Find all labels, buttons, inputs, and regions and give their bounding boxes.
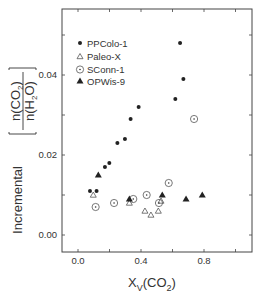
open-triangle-marker (77, 54, 83, 59)
dotted-circle-marker (165, 179, 172, 186)
legend-label: Paleo-X (87, 51, 121, 62)
filled-triangle-marker (77, 78, 84, 84)
legend-item: SConn-1 (76, 64, 124, 75)
filled-circle-marker (115, 141, 119, 145)
scatter-chart: 0.00.40.80.000.020.04 PPColo-1Paleo-XSCo… (0, 0, 261, 298)
filled-circle-marker (181, 77, 185, 81)
filled-circle-marker (103, 165, 107, 169)
x-tick-label: 0.8 (197, 255, 210, 266)
y-tick-label: 0.04 (39, 69, 58, 80)
dotted-circle-marker (110, 199, 117, 206)
dotted-circle-marker (143, 191, 150, 198)
open-triangle-marker (148, 212, 154, 217)
legend-label: SConn-1 (87, 64, 125, 75)
legend-label: OPWis-9 (87, 76, 125, 87)
x-tick-label: 0.0 (71, 255, 84, 266)
dotted-circle-marker (92, 203, 99, 210)
filled-circle-marker (137, 105, 141, 109)
y-axis-fraction: n(CO2) n(H2O) (8, 68, 39, 134)
axis-ticks: 0.00.40.80.000.020.04 (39, 9, 253, 266)
y-axis-title: Incremental n(CO2) n(H2O) (8, 68, 39, 234)
filled-triangle-marker (126, 196, 133, 202)
filled-circle-marker (88, 189, 92, 193)
series-paleo-x (90, 192, 164, 217)
filled-circle-marker (95, 189, 99, 193)
open-triangle-marker (90, 192, 96, 197)
x-tick-label: 0.4 (134, 255, 147, 266)
legend-item: PPColo-1 (78, 38, 128, 49)
filled-circle-marker (107, 161, 111, 165)
dotted-circle-marker (76, 66, 83, 73)
filled-triangle-marker (199, 192, 206, 198)
y-tick-label: 0.00 (39, 229, 58, 240)
filled-triangle-marker (183, 196, 190, 202)
dotted-circle-marker (190, 115, 197, 122)
open-triangle-marker (142, 208, 148, 213)
y-tick-label: 0.02 (39, 149, 58, 160)
legend-item: Paleo-X (77, 51, 121, 62)
legend-label: PPColo-1 (87, 38, 128, 49)
filled-circle-marker (173, 97, 177, 101)
filled-triangle-marker (159, 192, 166, 198)
filled-circle-marker (123, 137, 127, 141)
x-axis-title: XV(CO2) (128, 275, 176, 293)
filled-circle-marker (129, 117, 133, 121)
legend-item: OPWis-9 (77, 76, 126, 87)
series-opwis-9 (95, 172, 206, 202)
y-fraction-denominator: n(H2O) (22, 81, 39, 121)
filled-circle-marker (178, 41, 182, 45)
filled-triangle-marker (95, 172, 102, 178)
legend: PPColo-1Paleo-XSConn-1OPWis-9 (76, 38, 127, 87)
filled-circle-marker (78, 41, 82, 45)
open-triangle-marker (155, 208, 161, 213)
y-axis-title-word: Incremental (10, 166, 25, 234)
